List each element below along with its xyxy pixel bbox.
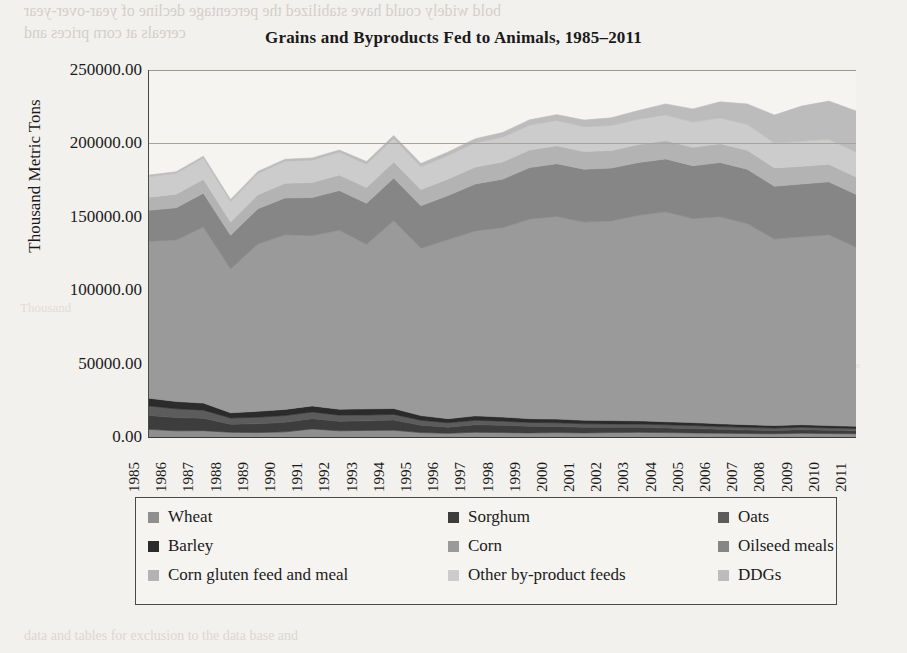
x-tick-label: 1985 [126, 462, 143, 492]
x-tick-label: 1994 [371, 462, 388, 492]
legend-item[interactable]: Sorghum [448, 507, 718, 527]
x-tick-label: 2002 [588, 462, 605, 492]
y-tick-label: 200000.00 [70, 133, 142, 153]
x-tick-label: 1986 [153, 462, 170, 492]
legend-grid: WheatSorghumOatsBarleyCornOilseed mealsC… [148, 507, 824, 585]
legend-item[interactable]: Oilseed meals [718, 536, 834, 556]
x-tick-label: 2011 [833, 463, 850, 492]
legend-label: DDGs [738, 565, 781, 585]
legend-swatch-icon [718, 541, 729, 552]
x-tick-label: 1992 [316, 462, 333, 492]
legend-swatch-icon [448, 512, 459, 523]
x-axis-tick-labels: 1985198619871988198919901991199219931994… [148, 440, 855, 492]
legend-label: Corn gluten feed and meal [168, 565, 348, 585]
gridline-250000 [149, 70, 856, 71]
y-axis-title: Thousand Metric Tons [25, 11, 45, 341]
x-tick-label: 1999 [507, 462, 524, 492]
y-tick-label: 50000.00 [78, 354, 142, 374]
x-tick-label: 1987 [180, 462, 197, 492]
legend-item[interactable]: Corn gluten feed and meal [148, 565, 448, 585]
legend-swatch-icon [718, 570, 729, 581]
legend-label: Barley [168, 536, 213, 556]
legend-swatch-icon [148, 570, 159, 581]
x-tick-label: 2006 [697, 462, 714, 492]
legend-item[interactable]: DDGs [718, 565, 834, 585]
x-tick-label: 1991 [289, 462, 306, 492]
x-tick-label: 2001 [561, 462, 578, 492]
y-tick-label: 100000.00 [70, 280, 142, 300]
y-tick-label: 150000.00 [70, 207, 142, 227]
x-tick-label: 2008 [751, 462, 768, 492]
y-axis-tick-labels: 0.0050000.00100000.00150000.00200000.002… [0, 70, 142, 437]
legend-item[interactable]: Corn [448, 536, 718, 556]
x-tick-label: 1996 [425, 462, 442, 492]
chart-title: Grains and Byproducts Fed to Animals, 19… [0, 28, 907, 48]
legend-item[interactable]: Wheat [148, 507, 448, 527]
chart-legend: WheatSorghumOatsBarleyCornOilseed mealsC… [135, 497, 837, 605]
x-tick-label: 2010 [806, 462, 823, 492]
legend-label: Sorghum [468, 507, 530, 527]
legend-label: Wheat [168, 507, 212, 527]
x-tick-label: 1993 [344, 462, 361, 492]
legend-item[interactable]: Oats [718, 507, 834, 527]
x-tick-label: 1995 [398, 462, 415, 492]
stacked-area-series [149, 70, 856, 437]
x-tick-label: 2004 [643, 462, 660, 492]
x-tick-label: 1998 [480, 462, 497, 492]
legend-swatch-icon [448, 570, 459, 581]
x-tick-label: 2005 [670, 462, 687, 492]
y-tick-label: 0.00 [112, 427, 142, 447]
legend-swatch-icon [718, 512, 729, 523]
legend-swatch-icon [448, 541, 459, 552]
y-tick-label: 250000.00 [70, 60, 142, 80]
x-tick-label: 1997 [452, 462, 469, 492]
x-tick-label: 2003 [615, 462, 632, 492]
legend-label: Oilseed meals [738, 536, 834, 556]
legend-swatch-icon [148, 512, 159, 523]
x-tick-label: 2000 [534, 462, 551, 492]
x-tick-label: 1988 [208, 462, 225, 492]
x-tick-label: 1990 [262, 462, 279, 492]
x-tick-label: 1989 [235, 462, 252, 492]
legend-swatch-icon [148, 541, 159, 552]
legend-label: Oats [738, 507, 769, 527]
legend-item[interactable]: Barley [148, 536, 448, 556]
gridline-200000 [149, 143, 856, 144]
legend-label: Other by-product feeds [468, 565, 626, 585]
legend-item[interactable]: Other by-product feeds [448, 565, 718, 585]
legend-label: Corn [468, 536, 502, 556]
x-tick-label: 2009 [779, 462, 796, 492]
x-tick-label: 2007 [724, 462, 741, 492]
bleed-through-text: bold widely could have stabilized the pe… [24, 2, 501, 20]
plot-area [148, 70, 856, 438]
bleed-through-text: data and tables for exclusion to the dat… [24, 628, 298, 644]
